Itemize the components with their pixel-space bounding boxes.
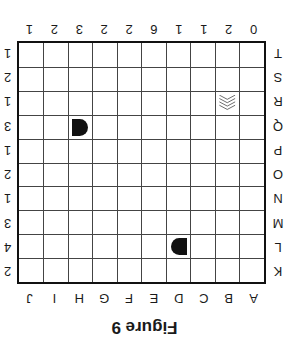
grid-cell-GT: [93, 43, 118, 67]
grid-cell-HO: [68, 163, 93, 187]
row-clues: 2 4 3 1 2 1 3 1 2 1: [0, 41, 15, 284]
grid-cell-HL: [68, 234, 93, 258]
grid-cell-AN: [240, 186, 265, 210]
grid-cell-DP: [166, 139, 191, 163]
grid-cell-DL: [166, 234, 191, 258]
grid-cell-DO: [166, 163, 191, 187]
grid-cell-JP: [19, 139, 44, 163]
grid-cell-AR: [240, 91, 265, 115]
grid-cell-FQ: [117, 115, 142, 139]
grid-cell-CT: [191, 43, 216, 67]
row-label: M: [269, 211, 287, 235]
grid-cell-AO: [240, 163, 265, 187]
grid-cell-AK: [240, 258, 265, 282]
grid-cell-CS: [191, 67, 216, 91]
row-clue: 2: [0, 65, 15, 89]
grid-cell-FN: [117, 186, 142, 210]
column-label: I: [42, 288, 67, 308]
grid-cell-HN: [68, 186, 93, 210]
column-clues: 0 2 1 1 6 2 2 3 2 1: [17, 19, 266, 39]
hatched-chevron-icon: [219, 95, 237, 112]
column-clue: 2: [117, 19, 142, 39]
grid-cell-IO: [44, 163, 69, 187]
row-clue: 1: [0, 41, 15, 65]
column-clue: 1: [191, 19, 216, 39]
grid-cell-HT: [68, 43, 93, 67]
grid-cell-CP: [191, 139, 216, 163]
row-label: S: [269, 65, 287, 89]
grid-cell-AL: [240, 234, 265, 258]
row-clue: 2: [0, 163, 15, 187]
grid-cell-IN: [44, 186, 69, 210]
ship-end-right-icon: [171, 238, 188, 255]
grid-cell-DK: [166, 258, 191, 282]
column-clue: 0: [241, 19, 266, 39]
grid-cell-IL: [44, 234, 69, 258]
grid-cell-GR: [93, 91, 118, 115]
grid-cell-EO: [142, 163, 167, 187]
grid-cell-IT: [44, 43, 69, 67]
grid-cell-FM: [117, 210, 142, 234]
puzzle-figure: Figure 9 A B C D E F G H I J K L M N O P…: [0, 0, 289, 343]
grid-cell-FR: [117, 91, 142, 115]
grid-cell-HK: [68, 258, 93, 282]
grid-cell-EM: [142, 210, 167, 234]
column-clue: 2: [42, 19, 67, 39]
puzzle-grid: [17, 41, 266, 284]
grid-cell-IP: [44, 139, 69, 163]
grid-cell-IR: [44, 91, 69, 115]
grid-cell-GQ: [93, 115, 118, 139]
row-clue: 3: [0, 211, 15, 235]
grid-cell-CK: [191, 258, 216, 282]
column-label: G: [92, 288, 117, 308]
grid-cell-EN: [142, 186, 167, 210]
grid-cell-HR: [68, 91, 93, 115]
grid-cell-EL: [142, 234, 167, 258]
grid-cell-GM: [93, 210, 118, 234]
grid-cell-HQ: [68, 115, 93, 139]
row-clue: 1: [0, 138, 15, 162]
grid-cell-ER: [142, 91, 167, 115]
grid-cell-BK: [215, 258, 240, 282]
column-label: A: [241, 288, 266, 308]
grid-cell-BN: [215, 186, 240, 210]
row-label: P: [269, 138, 287, 162]
grid-cell-CN: [191, 186, 216, 210]
column-labels: A B C D E F G H I J: [17, 288, 266, 308]
grid-cell-DS: [166, 67, 191, 91]
grid-cell-JR: [19, 91, 44, 115]
grid-cell-AT: [240, 43, 265, 67]
column-label: B: [216, 288, 241, 308]
grid-cell-EP: [142, 139, 167, 163]
row-label: L: [269, 235, 287, 259]
grid-cell-DQ: [166, 115, 191, 139]
grid-cell-JM: [19, 210, 44, 234]
grid-cell-AQ: [240, 115, 265, 139]
ship-end-left-icon: [72, 119, 89, 136]
grid-cell-CR: [191, 91, 216, 115]
grid-cell-FK: [117, 258, 142, 282]
row-label: Q: [269, 114, 287, 138]
grid-cell-IK: [44, 258, 69, 282]
grid-cell-GL: [93, 234, 118, 258]
grid-cell-BO: [215, 163, 240, 187]
grid-cell-GS: [93, 67, 118, 91]
grid-cell-FP: [117, 139, 142, 163]
grid-cell-FS: [117, 67, 142, 91]
row-clue: 3: [0, 114, 15, 138]
row-clue: 1: [0, 90, 15, 114]
figure-caption: Figure 9: [0, 317, 289, 337]
grid-cell-IS: [44, 67, 69, 91]
grid-cell-JN: [19, 186, 44, 210]
row-clue: 4: [0, 235, 15, 259]
grid-cell-GK: [93, 258, 118, 282]
row-label: K: [269, 260, 287, 284]
row-label: T: [269, 41, 287, 65]
grid-cell-JO: [19, 163, 44, 187]
column-label: J: [17, 288, 42, 308]
grid-cell-CM: [191, 210, 216, 234]
row-label: R: [269, 90, 287, 114]
grid-cell-GP: [93, 139, 118, 163]
grid-cell-ES: [142, 67, 167, 91]
column-clue: 1: [166, 19, 191, 39]
